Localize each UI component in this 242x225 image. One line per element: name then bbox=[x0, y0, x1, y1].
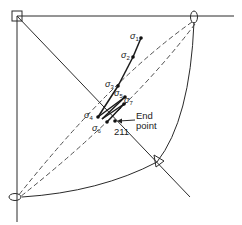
point-sigma-2 bbox=[131, 55, 135, 59]
label-sigma-1: σ1 bbox=[130, 31, 139, 42]
triangle-marker bbox=[154, 155, 164, 167]
end-point-dot bbox=[113, 119, 117, 123]
label-sigma-2: σ2 bbox=[121, 50, 130, 61]
dashed-curve-upper bbox=[18, 22, 192, 196]
path-segment bbox=[118, 57, 133, 86]
ellipse-marker-bottom bbox=[9, 194, 21, 201]
label-sigma-4: σ4 bbox=[84, 110, 93, 121]
end-point-label-line2: point bbox=[136, 120, 157, 131]
stress-path-diagram: σ1 σ2 σ3 σ5 σ7 σ4 σ6 End point 211 bbox=[0, 0, 242, 225]
ellipse-marker-top bbox=[191, 11, 198, 23]
end-point-number: 211 bbox=[114, 126, 129, 137]
point-sigma-1 bbox=[139, 36, 143, 40]
point-sigma-4 bbox=[96, 115, 100, 119]
point-sigma-6 bbox=[105, 120, 109, 124]
label-sigma-6: σ6 bbox=[92, 123, 101, 134]
label-sigma-5: σ5 bbox=[114, 88, 123, 99]
